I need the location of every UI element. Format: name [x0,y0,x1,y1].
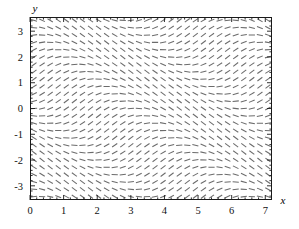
slope-segment [177,99,182,103]
slope-segment [79,71,85,72]
slope-segment [80,107,85,111]
slope-segment [265,42,271,43]
slope-segment [144,136,149,139]
slope-segment [185,99,190,103]
slope-segment [88,180,93,183]
slope-segment [152,63,157,66]
y-axis-label: y [32,2,38,14]
slope-segment [136,77,141,81]
slope-segment [79,64,85,65]
slope-segment [128,166,134,169]
slope-segment [152,107,158,109]
slope-segment [47,63,52,66]
slope-segment [96,114,101,118]
slope-segment [104,121,109,125]
slope-segment [225,55,230,59]
slope-segment [225,70,230,73]
slope-segment [145,158,150,162]
slope-segment [225,188,231,190]
slope-segment [193,107,198,111]
slope-segment [112,100,118,102]
slope-segment [112,41,117,45]
slope-segment [241,151,246,155]
slope-segment [88,26,93,30]
slope-segment [104,100,110,102]
slope-segment [120,129,125,133]
slope-segment [96,167,102,168]
slope-segment [104,195,109,199]
slope-segment [257,70,262,74]
slope-segment [112,70,117,73]
slope-segment [72,159,78,162]
slope-segment [233,189,239,190]
slope-segment [40,158,45,162]
slope-segment [120,136,125,140]
slope-segment [241,115,247,116]
slope-segment [128,41,134,44]
slope-segment [136,196,142,197]
slope-segment [31,166,36,169]
slope-segment [64,165,69,169]
slope-segment [96,100,101,103]
slope-segment [64,188,69,191]
slope-segment [48,70,53,74]
slope-segment [128,27,134,28]
slope-segment [56,180,61,184]
slope-segment [249,27,255,28]
slope-segment [31,35,37,36]
slope-segment [233,41,239,44]
slope-segment [152,151,157,155]
slope-segment [104,19,110,21]
slope-segment [96,55,101,58]
slope-segment [56,99,61,103]
y-tick-label: -1 [14,129,23,140]
slope-segment [200,152,206,153]
slope-segment [104,26,109,29]
slope-segment [152,19,157,22]
slope-segment [55,63,61,65]
slope-segment [177,166,182,169]
slope-segment [128,108,134,109]
slope-segment [168,41,174,43]
slope-segment [257,196,263,197]
slope-segment [209,100,215,102]
slope-segment [96,86,102,87]
slope-segment [168,144,174,146]
slope-segment [136,115,142,116]
slope-segment [160,123,166,124]
slope-segment [112,78,118,80]
slope-segment [160,56,166,57]
slope-segment [40,77,45,81]
slope-segment [201,41,206,45]
slope-segment [144,19,150,22]
slope-segment [63,122,69,124]
slope-segment [128,63,133,67]
slope-segment [104,71,110,73]
slope-segment [128,158,133,161]
slope-segment [241,158,246,162]
slope-segment [104,151,110,153]
slope-segment [71,137,77,138]
slope-segment [144,92,149,95]
slope-segment [88,137,94,140]
slope-segment [31,181,37,183]
slope-segment [217,195,222,198]
slope-segment [120,48,125,52]
slope-segment [144,56,149,59]
slope-segment [185,26,190,30]
slope-segment [112,181,118,183]
slope-segment [225,129,230,133]
slope-segment [241,20,247,22]
slope-segment [257,173,262,177]
slope-segment [144,49,150,51]
slope-segment [233,136,238,140]
slope-segment [47,196,53,197]
slope-segment [96,144,102,147]
slope-segment [160,42,166,43]
slope-segment [64,26,69,29]
slope-segment [72,114,77,117]
slope-segment [233,122,239,125]
slope-segment [160,151,165,154]
slope-segment [160,188,165,191]
slope-segment [169,180,174,184]
